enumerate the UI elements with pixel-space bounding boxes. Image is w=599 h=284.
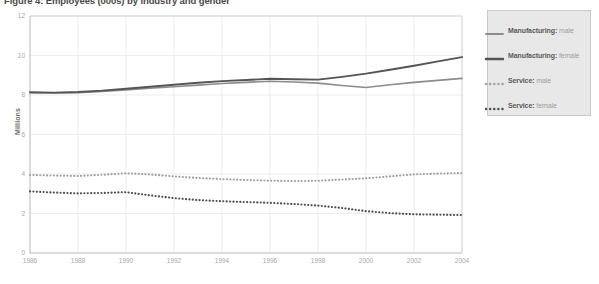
legend-category: Service: (508, 77, 536, 84)
y-axis-tick-label: 6 (3, 131, 25, 138)
legend-label: Service: male (508, 77, 551, 84)
legend-gender: female (536, 102, 556, 109)
chart-legend: Manufacturing: maleManufacturing: female… (487, 10, 591, 116)
legend-item-manufacturing-female[interactable]: Manufacturing: female (488, 48, 592, 62)
y-axis-tick-label: 10 (3, 52, 25, 59)
legend-gender: male (559, 27, 574, 34)
x-axis-tick-label: 1992 (154, 257, 194, 264)
x-axis-tick-label: 2000 (346, 257, 386, 264)
x-axis-tick-label: 1988 (58, 257, 98, 264)
x-axis-tick-label: 1994 (202, 257, 242, 264)
legend-gender: male (536, 77, 551, 84)
y-axis-tick-label: 4 (3, 170, 25, 177)
x-axis-tick-label: 2002 (394, 257, 434, 264)
x-axis-tick-label: 1998 (298, 257, 338, 264)
legend-swatch-icon (484, 100, 504, 110)
legend-category: Service: (508, 102, 536, 109)
legend-label: Service: female (508, 102, 557, 109)
legend-swatch-icon (484, 50, 504, 60)
legend-category: Manufacturing: (508, 27, 559, 34)
legend-swatch-icon (484, 75, 504, 85)
chart-area: Millions 0246810121986198819901992199419… (0, 0, 478, 284)
legend-item-manufacturing-male[interactable]: Manufacturing: male (488, 23, 592, 37)
legend-category: Manufacturing: (508, 52, 559, 59)
x-axis-tick-label: 1990 (106, 257, 146, 264)
y-axis-tick-label: 0 (3, 249, 25, 256)
x-axis-tick-label: 2004 (442, 257, 482, 264)
x-axis-tick-label: 1996 (250, 257, 290, 264)
legend-label: Manufacturing: male (508, 27, 574, 34)
legend-swatch-icon (484, 25, 504, 35)
y-axis-tick-label: 8 (3, 91, 25, 98)
y-axis-tick-label: 12 (3, 12, 25, 19)
legend-item-service-male[interactable]: Service: male (488, 73, 592, 87)
y-axis-tick-label: 2 (3, 210, 25, 217)
line-chart-plot (0, 0, 478, 284)
legend-item-service-female[interactable]: Service: female (488, 98, 592, 112)
x-axis-tick-label: 1986 (10, 257, 50, 264)
legend-label: Manufacturing: female (508, 52, 579, 59)
legend-gender: female (559, 52, 579, 59)
